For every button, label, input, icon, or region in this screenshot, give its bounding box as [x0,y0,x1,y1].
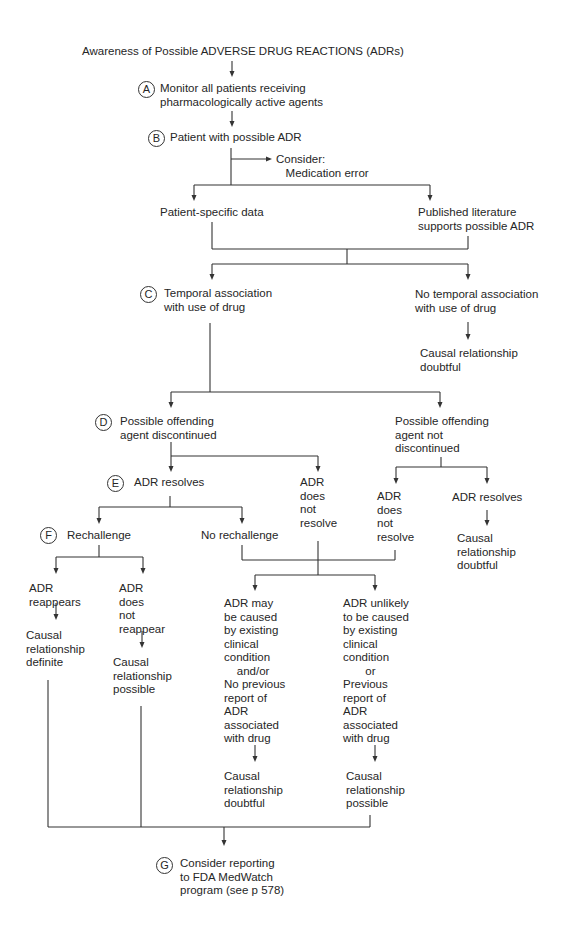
node-adr-may-be-caused: ADR may be caused by existing clinical c… [224,597,285,746]
step-badge-b: B [148,130,165,147]
node-nd-adr-does-not-resolve: ADR does not resolve [377,490,414,544]
node-f-rechallenge: Rechallenge [67,529,131,543]
node-adr-does-not-reappear: ADR does not reappear [119,582,165,636]
node-nd-resolves-result: Causal relationship doubtful [457,532,516,573]
node-d-discontinued: Possible offending agent discontinued [120,415,217,442]
node-published-literature: Published literature supports possible A… [418,206,534,233]
node-unlikely-result: Causal relationship possible [346,770,405,811]
step-badge-c: C [140,286,157,303]
node-e-adr-resolves: ADR resolves [134,476,204,490]
node-adr-unlikely: ADR unlikely to be caused by existing cl… [343,597,409,746]
node-no-temporal-association: No temporal association with use of drug [415,288,538,315]
node-adr-reappears: ADR reappears [29,582,81,609]
node-reappears-result: Causal relationship definite [26,629,85,670]
node-g-report-medwatch: Consider reporting to FDA MedWatch progr… [180,857,284,898]
node-nd-adr-resolves: ADR resolves [452,491,522,505]
step-badge-e: E [107,475,124,492]
node-not-reappear-result: Causal relationship possible [113,656,172,697]
step-badge-f: F [40,527,57,544]
node-no-temporal-result: Causal relationship doubtful [420,347,518,374]
node-a-monitor: Monitor all patients receiving pharmacol… [160,82,323,109]
flowchart-title: Awareness of Possible ADVERSE DRUG REACT… [82,45,404,59]
node-no-rechallenge: No rechallenge [201,529,278,543]
node-not-discontinued: Possible offending agent not discontinue… [395,415,489,456]
node-b-patient: Patient with possible ADR [170,131,302,145]
step-badge-g: G [156,857,173,874]
node-adr-does-not-resolve: ADR does not resolve [300,476,337,530]
node-may-be-caused-result: Causal relationship doubtful [224,770,283,811]
node-c-temporal-association: Temporal association with use of drug [164,287,272,314]
step-badge-a: A [138,81,155,98]
step-badge-d: D [95,414,112,431]
node-patient-specific-data: Patient-specific data [160,206,264,220]
node-consider-medication-error: Consider: Medication error [276,153,369,180]
